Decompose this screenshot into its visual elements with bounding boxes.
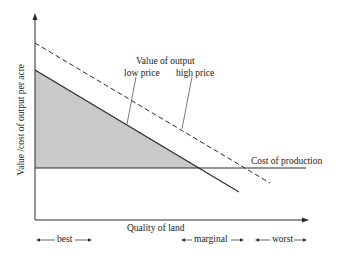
arrow-right-icon <box>240 238 244 241</box>
y-axis-label: Value /cost of output per acre <box>17 55 27 185</box>
arrow-right-icon <box>88 238 92 241</box>
arrow-left-icon <box>255 238 259 241</box>
zone-worst-label: worst <box>272 235 293 245</box>
arrow-left-icon <box>36 238 40 241</box>
x-axis-label: Quality of land <box>127 224 185 234</box>
y-axis-arrow-icon <box>33 13 38 20</box>
zone-best-label: best <box>57 235 72 245</box>
x-axis-arrow-icon <box>302 218 309 223</box>
zone-marginal-label: marginal <box>194 235 228 245</box>
low-price-label: low price <box>124 69 160 79</box>
low-price-leader <box>127 77 136 124</box>
cost-of-production-label: Cost of production <box>251 157 322 167</box>
high-price-leader <box>182 77 192 129</box>
arrow-left-icon <box>181 238 185 241</box>
high-price-label: high price <box>176 69 214 79</box>
arrow-right-icon <box>303 238 307 241</box>
value-of-output-label: Value of output <box>136 57 195 67</box>
